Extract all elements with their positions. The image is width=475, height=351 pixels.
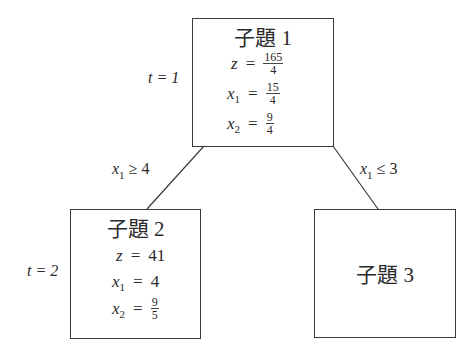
equation-x2: x2 = 9 5 xyxy=(112,296,159,321)
eq-subscript: 1 xyxy=(120,281,126,293)
fraction: 15 4 xyxy=(266,81,280,106)
node-subproblem-1: 子題 1 z = 165 4 x1 = 15 4 x2 = 9 4 xyxy=(192,18,334,147)
edge-label-branch-right: x1 ≤ 3 xyxy=(360,160,397,178)
node-title: 子題 3 xyxy=(315,258,455,288)
node-title: 子題 2 xyxy=(71,212,200,242)
denominator: 5 xyxy=(152,309,158,321)
equation-x1: x1 = 4 xyxy=(112,272,159,292)
eq-operator: = xyxy=(133,272,143,292)
node-subproblem-2: 子題 2 z = 41 x1 = 4 x2 = 9 5 xyxy=(70,209,201,339)
node-title: 子題 1 xyxy=(193,21,333,51)
eq-value: 41 xyxy=(148,246,165,266)
fraction: 9 4 xyxy=(266,111,274,136)
fraction: 9 5 xyxy=(151,296,159,321)
eq-var: x xyxy=(112,299,120,319)
edge-subscript: 1 xyxy=(119,169,125,181)
iteration-label-node2: t = 2 xyxy=(27,262,58,280)
iteration-label-node1: t = 1 xyxy=(148,69,179,87)
fraction: 165 4 xyxy=(263,51,283,76)
iteration-label-text: t = 1 xyxy=(148,69,179,86)
edge-subscript: 1 xyxy=(367,169,373,181)
equation-x1: x1 = 15 4 xyxy=(227,81,280,106)
eq-subscript: 2 xyxy=(235,123,241,135)
eq-value: 4 xyxy=(151,272,160,292)
eq-var: x xyxy=(227,84,235,104)
edge-relation: ≥ 4 xyxy=(129,160,150,177)
eq-operator: = xyxy=(246,54,256,74)
eq-operator: = xyxy=(248,114,258,134)
eq-operator: = xyxy=(131,246,141,266)
eq-subscript: 1 xyxy=(235,93,241,105)
edge-relation: ≤ 3 xyxy=(377,160,398,177)
denominator: 4 xyxy=(267,124,273,136)
eq-var: z xyxy=(116,246,123,266)
eq-var: x xyxy=(112,272,120,292)
eq-operator: = xyxy=(133,299,143,319)
equation-z: z = 165 4 xyxy=(231,51,283,76)
eq-subscript: 2 xyxy=(120,308,126,320)
eq-var: x xyxy=(227,114,235,134)
node-subproblem-3: 子題 3 xyxy=(314,209,456,338)
denominator: 4 xyxy=(270,94,276,106)
equation-z: z = 41 xyxy=(116,246,165,266)
eq-var: z xyxy=(231,54,238,74)
denominator: 4 xyxy=(270,64,276,76)
edge-label-branch-left: x1 ≥ 4 xyxy=(112,160,149,178)
iteration-label-text: t = 2 xyxy=(27,262,58,279)
eq-operator: = xyxy=(248,84,258,104)
edge-node1-node2 xyxy=(147,146,204,209)
equation-x2: x2 = 9 4 xyxy=(227,111,274,136)
